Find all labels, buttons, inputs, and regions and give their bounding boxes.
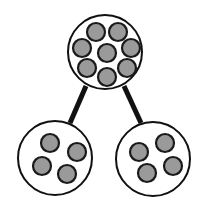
particle: [109, 23, 127, 41]
cluster-child-left: [18, 121, 92, 195]
particle: [78, 59, 96, 77]
particle: [98, 68, 116, 86]
particle: [118, 59, 136, 77]
nodes: [18, 15, 190, 196]
particle: [73, 39, 91, 57]
particle: [98, 44, 116, 62]
particle: [68, 143, 86, 161]
particle: [58, 165, 76, 183]
particle: [33, 157, 51, 175]
edge-parent-to-child-right: [124, 86, 141, 123]
particle: [87, 23, 105, 41]
particle: [122, 39, 140, 57]
cluster-split-diagram: [0, 0, 207, 213]
edge-parent-to-child-left: [70, 86, 86, 123]
particle: [164, 157, 182, 175]
particle: [138, 164, 156, 182]
particle: [156, 134, 174, 152]
particle: [130, 143, 148, 161]
cluster-parent: [68, 15, 142, 89]
cluster-child-right: [116, 122, 190, 196]
edges: [70, 86, 141, 123]
particle: [41, 134, 59, 152]
